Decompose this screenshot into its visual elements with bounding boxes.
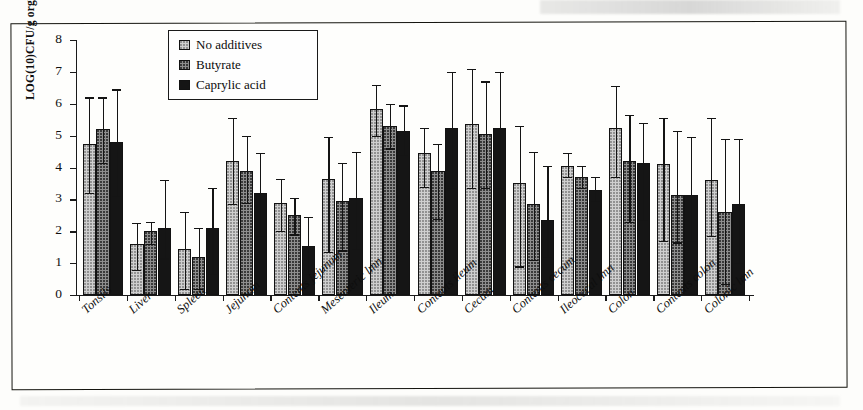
error-cap-bottom-1-9 <box>529 260 538 261</box>
error-cap-bottom-0-9 <box>515 266 524 267</box>
error-bar-2-2 <box>212 188 213 274</box>
error-cap-bottom-0-12 <box>659 241 668 242</box>
error-bar-2-12 <box>691 137 692 241</box>
error-cap-bottom-1-12 <box>673 242 682 243</box>
error-cap-bottom-0-10 <box>563 177 572 178</box>
error-bar-2-4 <box>308 217 309 274</box>
error-cap-top-2-8 <box>495 72 504 73</box>
y-tick-mark <box>70 231 76 232</box>
error-cap-bottom-1-10 <box>577 188 586 189</box>
error-bar-1-6 <box>390 104 391 149</box>
y-tick-mark <box>70 40 76 41</box>
x-tick-mark <box>175 295 176 301</box>
error-bar-1-10 <box>582 166 583 188</box>
error-cap-bottom-0-7 <box>420 187 429 188</box>
error-bar-0-11 <box>616 86 617 177</box>
error-cap-top-0-1 <box>132 223 141 224</box>
error-cap-bottom-1-3 <box>242 203 251 204</box>
y-tick-mark <box>70 72 76 73</box>
legend-swatch-icon-0 <box>179 40 190 50</box>
error-cap-bottom-2-5 <box>352 249 361 250</box>
error-bar-0-10 <box>568 153 569 177</box>
x-tick-mark <box>414 295 415 301</box>
error-cap-top-2-9 <box>543 166 552 167</box>
error-cap-bottom-2-1 <box>160 258 169 259</box>
error-bar-2-9 <box>547 166 548 257</box>
error-bar-0-2 <box>185 212 186 289</box>
error-bar-1-13 <box>725 139 726 284</box>
error-bar-0-12 <box>663 118 664 241</box>
error-bar-1-4 <box>294 198 295 235</box>
error-bar-0-6 <box>376 85 377 136</box>
error-bar-2-6 <box>404 105 405 154</box>
error-cap-bottom-1-4 <box>290 234 299 235</box>
bar-1-6 <box>383 126 396 295</box>
error-bar-2-7 <box>452 72 453 188</box>
error-cap-top-0-6 <box>372 85 381 86</box>
error-cap-bottom-2-8 <box>495 188 504 189</box>
y-tick-label: 5 <box>46 127 62 143</box>
error-bar-0-8 <box>472 69 473 189</box>
y-tick-mark <box>70 168 76 169</box>
y-tick-mark <box>70 263 76 264</box>
legend-label-1: Butyrate <box>196 57 241 73</box>
bar-1-10 <box>575 177 588 295</box>
chart-legend: No additives Butyrate Caprylic acid <box>168 30 318 100</box>
legend-label-0: No additives <box>196 37 262 53</box>
y-tick-mark <box>70 104 76 105</box>
error-bar-1-9 <box>534 152 535 260</box>
error-cap-bottom-1-11 <box>625 222 634 223</box>
error-cap-top-1-8 <box>481 81 490 82</box>
error-cap-top-2-5 <box>352 152 361 153</box>
error-bar-1-5 <box>342 163 343 251</box>
x-tick-mark <box>749 295 750 301</box>
x-tick-mark <box>510 295 511 301</box>
error-bar-2-5 <box>356 152 357 249</box>
error-bar-1-7 <box>438 144 439 219</box>
error-bar-2-3 <box>260 153 261 236</box>
error-cap-bottom-0-2 <box>180 289 189 290</box>
x-tick-mark <box>653 295 654 301</box>
x-tick-mark <box>605 295 606 301</box>
legend-swatch-icon-1 <box>179 60 190 70</box>
y-tick-label: 2 <box>46 222 62 238</box>
error-cap-top-2-0 <box>112 89 121 90</box>
error-cap-bottom-2-3 <box>256 236 265 237</box>
y-tick-mark <box>70 295 76 296</box>
error-cap-top-1-11 <box>625 115 634 116</box>
error-bar-0-0 <box>89 97 90 193</box>
error-bar-1-3 <box>247 136 248 203</box>
y-axis-line <box>76 40 77 296</box>
error-cap-top-0-0 <box>85 97 94 98</box>
error-bar-2-11 <box>643 123 644 220</box>
error-bar-0-13 <box>711 118 712 236</box>
error-cap-bottom-2-12 <box>687 241 696 242</box>
error-cap-bottom-2-11 <box>639 220 648 221</box>
y-tick-label: 7 <box>46 63 62 79</box>
error-cap-bottom-1-6 <box>386 148 395 149</box>
error-cap-bottom-0-13 <box>707 236 716 237</box>
error-cap-bottom-1-7 <box>433 219 442 220</box>
error-bar-1-12 <box>677 131 678 243</box>
error-cap-top-1-10 <box>577 166 586 167</box>
error-cap-top-2-6 <box>399 105 408 106</box>
error-cap-bottom-0-1 <box>132 270 141 271</box>
error-bar-1-0 <box>103 97 104 162</box>
y-tick-mark <box>70 136 76 137</box>
error-cap-top-0-13 <box>707 118 716 119</box>
error-cap-bottom-0-6 <box>372 136 381 137</box>
error-bar-0-5 <box>328 137 329 252</box>
error-cap-top-1-2 <box>194 228 203 229</box>
x-tick-mark-origin <box>79 295 80 301</box>
error-cap-top-1-6 <box>386 104 395 105</box>
error-bar-2-13 <box>739 139 740 263</box>
x-tick-mark <box>558 295 559 301</box>
x-tick-mark <box>701 295 702 301</box>
error-bar-0-4 <box>281 179 282 232</box>
error-cap-top-2-3 <box>256 153 265 154</box>
legend-swatch-icon-2 <box>179 80 190 90</box>
error-cap-top-2-13 <box>734 139 743 140</box>
error-cap-top-2-4 <box>304 217 313 218</box>
error-bar-1-1 <box>151 222 152 244</box>
y-tick-label: 6 <box>46 95 62 111</box>
